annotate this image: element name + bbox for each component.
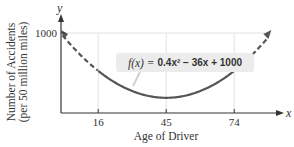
y-axis-variable: y [56, 1, 63, 15]
y-axis-subtitle: (per 50 million miles) [17, 22, 30, 123]
function-label: f(x) = 0.4x² − 36x + 1000 [116, 53, 254, 72]
function-lhs: f(x) = [128, 57, 155, 69]
x-axis-title: Age of Driver [134, 130, 199, 143]
x-tick-label: 16 [93, 116, 105, 128]
curve-right-arrow-icon [263, 30, 271, 39]
function-rhs: 0.4x² − 36x + 1000 [158, 57, 243, 68]
x-tick-label: 45 [161, 116, 173, 128]
x-ticks: 164574 [93, 109, 241, 128]
curve-left-arrow-icon [61, 30, 68, 39]
y-axis-arrow-icon [58, 14, 64, 22]
x-axis-arrow-icon [276, 110, 284, 116]
x-axis-variable: x [285, 106, 292, 120]
label-pointer [133, 72, 140, 86]
y-axis-title: Number of Accidents [5, 22, 17, 121]
y-tick-label: 1000 [35, 27, 58, 39]
gridlines [61, 33, 270, 113]
chart: 164574 1000 y x Age of Driver Number of … [0, 0, 294, 147]
x-tick-label: 74 [229, 116, 241, 128]
